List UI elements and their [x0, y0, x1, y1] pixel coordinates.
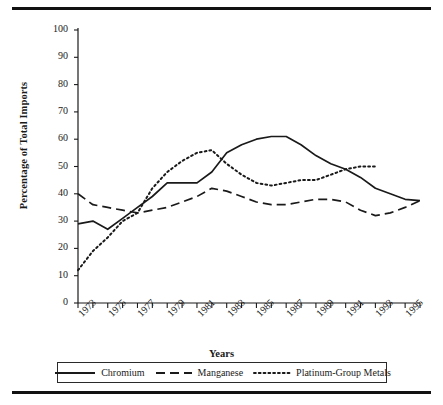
chart-legend: ChromiumManganesePlatinum-Group Metals — [57, 362, 387, 383]
bottom-horizontal-rule — [12, 391, 431, 394]
x-axis-title: Years — [0, 348, 443, 359]
series-line-manganese — [78, 188, 420, 215]
legend-swatch-dashed — [154, 368, 194, 378]
figure-container: Percentage of Total Imports 100908070605… — [0, 0, 443, 405]
legend-entry-manganese: Manganese — [154, 367, 244, 378]
legend-swatch-dotted — [252, 368, 292, 378]
legend-label: Chromium — [101, 367, 144, 378]
legend-entry-chromium: Chromium — [53, 367, 144, 378]
series-line-chromium — [78, 137, 420, 230]
legend-label: Platinum-Group Metals — [296, 367, 391, 378]
legend-entry-platinum-group-metals: Platinum-Group Metals — [252, 367, 391, 378]
top-horizontal-rule — [12, 7, 431, 10]
legend-label: Manganese — [198, 367, 244, 378]
legend-swatch-solid — [53, 368, 97, 378]
chart-svg — [0, 18, 443, 318]
plot-area: Percentage of Total Imports 100908070605… — [0, 18, 443, 318]
